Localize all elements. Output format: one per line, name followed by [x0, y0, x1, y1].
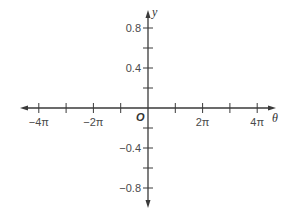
y-axis-bottom-arrow-icon [146, 200, 151, 208]
x-tick-label: −4π [29, 116, 50, 128]
x-axis-left-arrow-icon [20, 106, 28, 111]
origin-label: O [136, 111, 145, 123]
y-tick-label: −0.8 [119, 182, 141, 194]
x-axis-label: θ [272, 111, 278, 125]
coordinate-plane: −4π−2π2π4π0.80.4−0.4−0.8 θ y O [0, 0, 290, 217]
x-tick-label: −2π [83, 116, 104, 128]
y-axis-top-arrow-icon [146, 10, 151, 18]
x-tick-label: 2π [196, 116, 210, 128]
y-tick-label: 0.4 [126, 62, 141, 74]
axes [20, 10, 276, 208]
x-tick-label: 4π [250, 116, 264, 128]
x-axis-right-arrow-icon [268, 106, 276, 111]
y-tick-label: −0.4 [119, 142, 141, 154]
y-axis-label: y [151, 5, 158, 19]
y-tick-label: 0.8 [126, 22, 141, 34]
